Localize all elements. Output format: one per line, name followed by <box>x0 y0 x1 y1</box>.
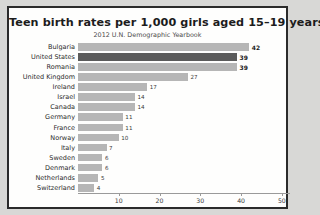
bar <box>78 154 102 162</box>
bar-row: Italy7 <box>78 143 290 153</box>
x-axis-tick-label: 50 <box>278 197 286 204</box>
category-label: Italy <box>61 144 75 152</box>
bar-value-label: 6 <box>105 165 109 171</box>
category-label: France <box>53 124 75 132</box>
x-axis-tick-label: 10 <box>115 197 123 204</box>
bar <box>78 93 135 101</box>
x-axis-tick <box>119 193 120 196</box>
bar <box>78 63 237 71</box>
bar <box>78 124 123 132</box>
bar-row: Germany11 <box>78 112 290 122</box>
category-label: Bulgaria <box>48 43 75 51</box>
x-axis-tick-label: 40 <box>237 197 245 204</box>
bar-value-label: 42 <box>252 44 260 51</box>
bar-row: Sweden6 <box>78 153 290 163</box>
x-axis-tick <box>160 193 161 196</box>
x-axis-tick-label: 30 <box>196 197 204 204</box>
chart-subtitle: 2012 U.N. Demographic Yearbook <box>9 31 286 39</box>
bar-row: Ireland17 <box>78 82 290 92</box>
category-label: United States <box>31 53 75 61</box>
bar-value-label: 6 <box>105 155 109 161</box>
x-axis-tick <box>241 193 242 196</box>
category-label: Ireland <box>53 83 75 91</box>
bar <box>78 53 237 61</box>
bar-value-label: 5 <box>101 175 105 181</box>
category-label: Sweden <box>49 154 75 162</box>
chart-canvas: Teen birth rates per 1,000 girls aged 15… <box>9 8 286 207</box>
bar <box>78 174 98 182</box>
bar-row: Israel14 <box>78 92 290 102</box>
x-axis-tick <box>200 193 201 196</box>
bar-value-label: 27 <box>191 74 198 80</box>
bar <box>78 144 107 152</box>
x-axis: 1020304050 <box>78 193 290 194</box>
bar <box>78 83 147 91</box>
category-label: Germany <box>45 113 75 121</box>
bar-row: Romania39 <box>78 62 290 72</box>
x-axis-tick <box>282 193 283 196</box>
bar-row: Switzerland4 <box>78 183 290 193</box>
bar-value-label: 14 <box>138 104 145 110</box>
x-axis-tick-label: 20 <box>156 197 164 204</box>
bar <box>78 73 188 81</box>
bar-row: France11 <box>78 123 290 133</box>
bar <box>78 113 123 121</box>
bar-value-label: 7 <box>109 145 113 151</box>
category-label: Israel <box>57 93 75 101</box>
bar-row: Bulgaria42 <box>78 42 290 52</box>
plot-area: Bulgaria42United States39Romania39United… <box>78 42 290 193</box>
bar-row: United States39 <box>78 52 290 62</box>
bar-value-label: 39 <box>240 64 248 71</box>
bar-row: Netherlands5 <box>78 173 290 183</box>
bar-row: United Kingdom27 <box>78 72 290 82</box>
bar <box>78 164 102 172</box>
category-label: Denmark <box>45 164 75 172</box>
bar-row: Canada14 <box>78 102 290 112</box>
bar-value-label: 10 <box>121 135 128 141</box>
bar-value-label: 17 <box>150 84 157 90</box>
category-label: Netherlands <box>35 174 75 182</box>
category-label: Canada <box>50 103 75 111</box>
bar-value-label: 11 <box>125 114 132 120</box>
bar-value-label: 11 <box>125 125 132 131</box>
bar <box>78 103 135 111</box>
chart-figure: Teen birth rates per 1,000 girls aged 15… <box>7 6 288 209</box>
bar <box>78 134 119 142</box>
bar-value-label: 4 <box>97 185 101 191</box>
category-label: United Kingdom <box>23 73 75 81</box>
bar <box>78 184 94 192</box>
bar-value-label: 39 <box>240 54 248 61</box>
category-label: Romania <box>47 63 75 71</box>
bar-row: Denmark6 <box>78 163 290 173</box>
category-label: Switzerland <box>37 184 75 192</box>
bar <box>78 43 249 51</box>
chart-title: Teen birth rates per 1,000 girls aged 15… <box>9 16 286 29</box>
bar-value-label: 14 <box>138 94 145 100</box>
bar-row: Norway10 <box>78 133 290 143</box>
category-label: Norway <box>50 134 75 142</box>
